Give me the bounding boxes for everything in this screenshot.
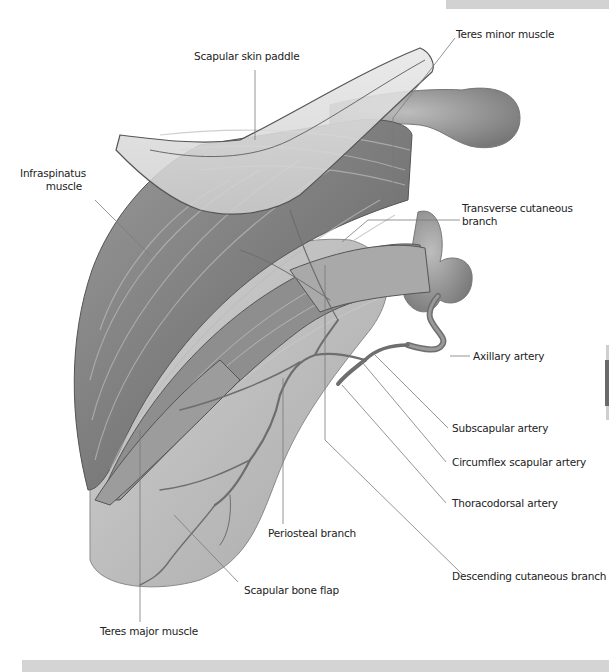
label-thoracodorsal-artery: Thoracodorsal artery: [452, 497, 558, 510]
label-circumflex-scapular-artery: Circumflex scapular artery: [452, 456, 586, 469]
label-periosteal-branch: Periosteal branch: [268, 527, 356, 540]
label-axillary-artery: Axillary artery: [473, 350, 544, 363]
label-infraspinatus-line1: Infraspinatus: [20, 167, 82, 180]
label-teres-major-muscle: Teres major muscle: [100, 625, 198, 638]
label-infraspinatus-line2: muscle: [20, 180, 82, 193]
label-transverse-line2: branch: [462, 215, 573, 228]
label-transverse-line1: Transverse cutaneous: [462, 202, 573, 215]
label-subscapular-artery: Subscapular artery: [452, 422, 548, 435]
label-descending-cutaneous-branch: Descending cutaneous branch: [452, 570, 606, 583]
label-teres-minor-muscle: Teres minor muscle: [456, 28, 554, 41]
label-transverse-cutaneous-branch: Transverse cutaneous branch: [462, 202, 573, 228]
label-infraspinatus-muscle: Infraspinatus muscle: [20, 167, 82, 193]
label-scapular-bone-flap: Scapular bone flap: [244, 584, 339, 597]
label-scapular-skin-paddle: Scapular skin paddle: [194, 50, 299, 63]
